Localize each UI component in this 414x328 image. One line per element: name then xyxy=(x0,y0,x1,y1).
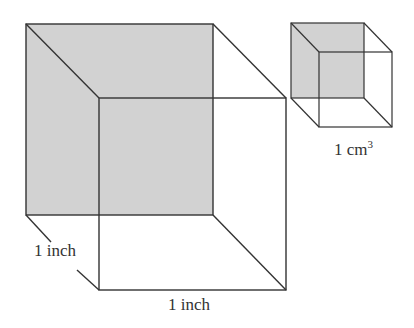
large-cube-edge-bottom-left-upper xyxy=(26,215,51,242)
small-cube-edge-br xyxy=(364,98,392,127)
small-cube-edge-tr xyxy=(364,23,392,52)
small-cube-label-exponent: 3 xyxy=(368,138,374,150)
small-cube-label: 1 cm3 xyxy=(334,138,373,160)
small-cube xyxy=(291,23,392,127)
small-cube-label-base: 1 cm xyxy=(334,140,368,159)
large-cube-depth-label: 1 inch xyxy=(34,241,76,261)
large-cube-edge-top-right xyxy=(213,24,286,98)
large-cube-edge-bottom-left-lower xyxy=(77,270,99,290)
small-cube-edge-bl xyxy=(291,98,319,127)
large-cube-edge-bottom-right xyxy=(213,215,286,290)
large-cube-width-label: 1 inch xyxy=(168,295,210,315)
cube-diagram xyxy=(0,0,414,328)
